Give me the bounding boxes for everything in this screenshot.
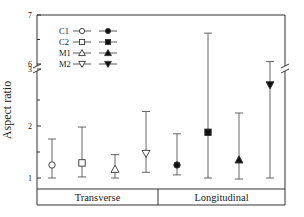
legend-label: M2 xyxy=(59,59,71,69)
data-point-transverse-c1 xyxy=(48,139,56,178)
legend: C1C2M1M2 xyxy=(59,26,117,69)
triangle-down-marker-icon xyxy=(266,82,274,89)
group-label-longitudinal: Longitudinal xyxy=(194,192,248,203)
y-tick-label: 6 xyxy=(28,60,32,69)
legend-marker-filled-circle-icon xyxy=(105,28,110,33)
data-point-longitudinal-c2 xyxy=(204,33,212,178)
plot-frame xyxy=(33,15,289,205)
circle-marker-icon xyxy=(49,162,55,168)
group-label-transverse: Transverse xyxy=(75,192,121,203)
legend-label: M1 xyxy=(59,48,71,58)
triangle-up-marker-icon xyxy=(235,156,243,163)
group-labels: TransverseLongitudinal xyxy=(75,192,249,203)
aspect-ratio-chart: 12367 C1C2M1M2 TransverseLongitudinal As… xyxy=(0,0,304,217)
data-point-transverse-m2 xyxy=(142,111,150,172)
y-axis: 12367 xyxy=(28,11,41,183)
data-point-longitudinal-m2 xyxy=(266,62,274,178)
data-point-transverse-c2 xyxy=(78,127,86,177)
legend-marker-open-circle-icon xyxy=(79,28,84,33)
triangle-up-marker-icon xyxy=(111,165,119,172)
legend-marker-filled-square-icon xyxy=(105,39,110,44)
data-point-transverse-m1 xyxy=(111,155,119,178)
y-tick-label: 2 xyxy=(28,122,32,131)
square-marker-icon xyxy=(79,160,85,166)
y-axis-label: Aspect ratio xyxy=(0,81,14,139)
square-marker-icon xyxy=(205,129,211,135)
circle-marker-icon xyxy=(174,162,180,168)
legend-label: C2 xyxy=(59,37,69,47)
data-point-longitudinal-m1 xyxy=(235,113,243,179)
legend-label: C1 xyxy=(59,26,69,36)
data-point-longitudinal-c1 xyxy=(173,134,181,175)
y-tick-label: 1 xyxy=(28,174,32,183)
triangle-down-marker-icon xyxy=(142,150,150,157)
legend-marker-open-square-icon xyxy=(79,39,84,44)
y-tick-label: 7 xyxy=(28,11,32,20)
